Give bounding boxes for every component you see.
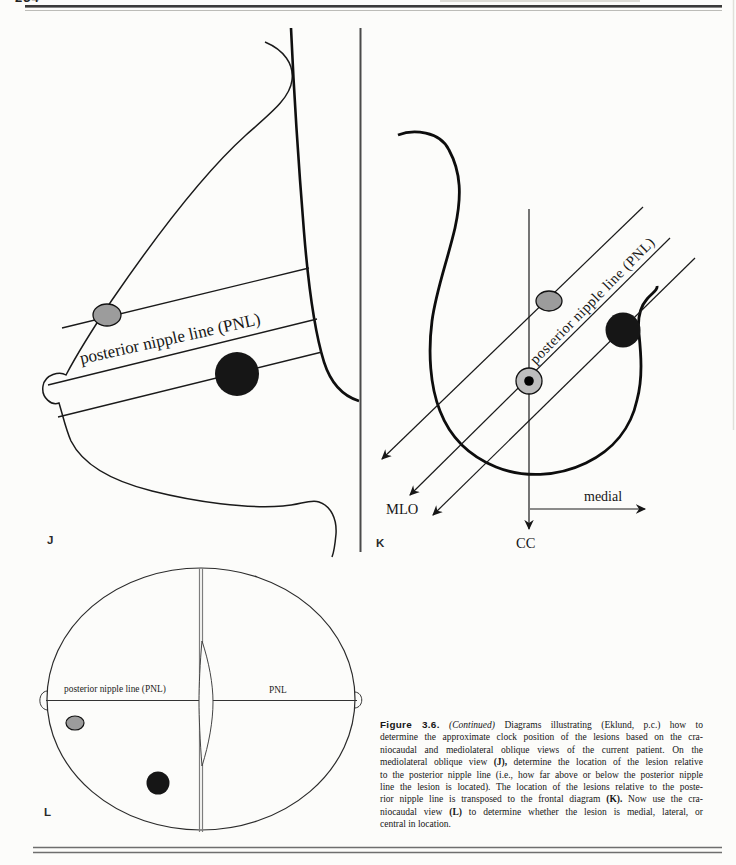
chest-wall-line	[291, 28, 359, 401]
mlo-axis-label: MLO	[386, 501, 418, 518]
figure-caption: Figure 3.6. (Continued) Diagrams illustr…	[380, 719, 703, 831]
caption-line: line the lesion is located). The locatio…	[380, 781, 703, 793]
nipple-bump-left	[40, 691, 47, 710]
medial-axis-label: medial	[584, 489, 622, 505]
lesion-black-frontal	[606, 313, 641, 348]
book-page: 234	[0, 0, 736, 865]
lesion-black-cc	[147, 772, 170, 795]
panel-letter-k: K	[376, 537, 384, 549]
breast-outline-mlo	[43, 42, 336, 557]
pnl-label-cc-left: posterior nipple line (PNL)	[64, 684, 166, 694]
pnl-label-cc-right: PNL	[269, 685, 287, 695]
header-remnant	[440, 0, 640, 2]
breast-outline-frontal	[398, 132, 657, 474]
panel-letter-j: J	[47, 534, 53, 546]
mlo-projection-arrow-lower	[433, 258, 695, 515]
nipple-marker-dot	[524, 376, 534, 386]
caption-line: niocaudal and mediolateral oblique views…	[380, 744, 703, 756]
caption-line: Figure 3.6. (Continued) Diagrams illustr…	[380, 719, 703, 731]
caption-line: to the posterior nipple line (i.e., how …	[380, 769, 703, 781]
lesion-gray-frontal	[536, 291, 562, 311]
panel-letter-l: L	[44, 806, 51, 818]
mlo-projection-arrow-upper	[382, 207, 643, 459]
top-rule	[25, 5, 722, 8]
caption-line: determine the approximate clock position…	[380, 731, 703, 743]
cc-axis-label: CC	[516, 535, 535, 552]
caption-line: rior nipple line is transposed to the fr…	[380, 793, 703, 805]
caption-line: central in location.	[380, 818, 703, 830]
sternum-lens-shape	[199, 641, 213, 766]
lesion-gray-mlo	[93, 304, 121, 326]
caption-line: niocaudal view (L) to determine whether …	[380, 806, 703, 818]
mlo-projection-arrow-pnl	[410, 238, 670, 495]
lesion-gray-cc	[66, 716, 84, 730]
lesion-black-mlo	[215, 352, 259, 396]
caption-line: mediolateral oblique view (J), determine…	[380, 756, 703, 768]
